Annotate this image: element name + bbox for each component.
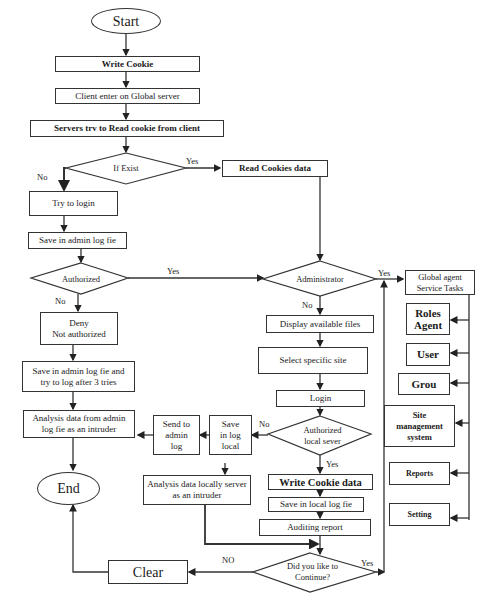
client-enter-box: Client enter on Global server — [55, 88, 200, 104]
edge-label-continue-yes: Yes — [361, 558, 373, 568]
authorized-local-text: Authorized local sever — [290, 425, 355, 447]
edge-label-local-no: No — [259, 419, 269, 429]
edge-label-exist-no: No — [37, 172, 47, 182]
try-login-box: Try to login — [29, 191, 118, 216]
edge-label-exist-yes: Yes — [186, 156, 198, 166]
end-terminal: End — [37, 472, 100, 505]
start-terminal: Start — [91, 8, 161, 34]
continue-text: Did you like to Continue? — [275, 561, 350, 583]
save-admin-log-box: Save in admin log fie — [28, 232, 127, 249]
roles-agent-box: Roles Agent — [406, 303, 450, 335]
analysis-admin-box: Analysis data from admin log fie as an i… — [23, 410, 135, 438]
edge-label-auth-yes: Yes — [167, 266, 179, 276]
clear-box: Clear — [108, 560, 188, 584]
edge-label-admin-yes: Yes — [378, 268, 390, 278]
if-exist-text: If Exist — [96, 160, 156, 176]
read-cookies-box: Read Cookies data — [222, 160, 328, 177]
reports-box: Reports — [389, 462, 450, 485]
site-management-box: Site management system — [384, 405, 455, 447]
auditing-report-box: Auditing report — [259, 519, 371, 536]
analysis-local-box: Analysis data locally server as an intru… — [143, 475, 251, 505]
user-box: User — [406, 343, 450, 366]
authorized-text: Authorized — [46, 271, 116, 287]
display-files-box: Display available files — [266, 315, 374, 333]
deny-box: Deny Not authorized — [40, 312, 118, 345]
write-cookie-data-box: Write Cookie data — [268, 474, 373, 490]
administrator-text: Administrator — [285, 271, 355, 287]
send-admin-log-box: Send to admin log — [153, 415, 200, 455]
edge-label-admin-no: No — [302, 300, 312, 310]
save-log-local-box: Save in log local — [209, 415, 252, 455]
save-local-log-box: Save in local log fie — [268, 497, 364, 512]
edge-label-continue-no: NO — [222, 555, 234, 565]
select-site-box: Select specific site — [258, 347, 368, 374]
edge-label-local-yes: Yes — [326, 459, 338, 469]
save-admin-log-tries-box: Save in admin log fie and try to log aft… — [22, 361, 135, 392]
global-agent-box: Global agent Service Tasks — [405, 270, 475, 295]
edge-label-auth-no: No — [55, 296, 65, 306]
servers-read-box: Servers trv to Read cookie from client — [30, 120, 224, 137]
login-box: Login — [276, 390, 365, 407]
group-box: Grou — [398, 373, 450, 395]
setting-box: Setting — [389, 503, 450, 526]
write-cookie-box: Write Cookie — [55, 56, 200, 72]
